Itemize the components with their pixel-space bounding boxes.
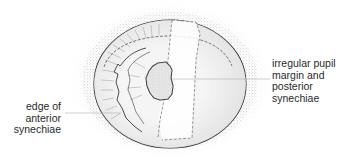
label-line: synechiae [0,124,61,136]
label-line: posterior [272,81,336,93]
label-line: synechiae [272,93,336,105]
label-line: irregular pupil [272,58,336,70]
label-irregular-pupil-posterior-synechiae: irregular pupil margin and posterior syn… [272,58,336,104]
label-edge-of-anterior-synechiae: edge of anterior synechiae [0,101,61,136]
label-line: edge of [0,101,61,113]
